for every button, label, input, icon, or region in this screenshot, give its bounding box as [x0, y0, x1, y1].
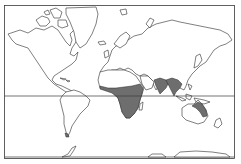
madagascar [139, 102, 143, 110]
svalbard [120, 9, 127, 15]
antarctica [148, 151, 230, 157]
range-india [154, 78, 168, 94]
new-zealand [214, 118, 222, 128]
arctic-islands [36, 8, 68, 28]
caribbean [60, 78, 70, 82]
south-america [60, 90, 90, 136]
british-isles [104, 50, 109, 58]
antarctic-peninsula [62, 146, 76, 157]
range-sub-saharan-africa [100, 84, 143, 118]
north-america [8, 26, 78, 94]
greenland [66, 7, 98, 48]
world-distribution-map [0, 0, 241, 164]
iceland [98, 41, 106, 45]
